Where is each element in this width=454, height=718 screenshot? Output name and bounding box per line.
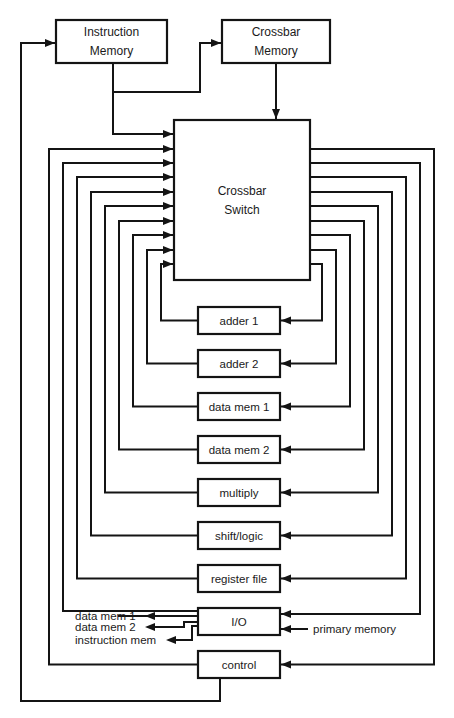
unit-control-label: control — [222, 659, 257, 671]
crossbar-memory-box-label: Crossbar — [252, 25, 301, 39]
arrowhead-icon — [281, 610, 291, 618]
unit-shift-logic: shift/logic — [198, 522, 280, 549]
unit-adder-2: adder 2 — [198, 350, 280, 377]
unit-adder-2-label: adder 2 — [219, 358, 258, 370]
arrowhead-icon — [272, 109, 280, 119]
unit-adder-1: adder 1 — [198, 307, 280, 334]
arrowhead-icon — [211, 39, 221, 47]
arrowhead-icon — [281, 575, 291, 583]
unit-multiply: multiply — [198, 479, 280, 506]
unit-adder-1-label: adder 1 — [219, 315, 258, 327]
unit-data-mem-2: data mem 2 — [198, 436, 280, 463]
crossbar-memory-box-label: Memory — [254, 44, 297, 58]
arrowhead-icon — [163, 202, 173, 210]
wire-io-to-data-mem-2 — [150, 622, 198, 627]
instruction-memory-box-label: Instruction — [84, 25, 139, 39]
arrowhead-icon — [281, 532, 291, 540]
arrowhead-icon — [166, 636, 176, 644]
unit-io-label: I/O — [231, 616, 246, 628]
arrowhead-icon — [145, 623, 155, 631]
unit-io: I/O — [198, 608, 280, 635]
crossbar-switch-box-label: Switch — [224, 203, 259, 217]
arrowhead-icon — [163, 217, 173, 225]
arrowhead-icon — [281, 661, 291, 669]
arrowhead-icon — [281, 625, 291, 633]
arrowhead-icon — [281, 489, 291, 497]
crossbar-switch-box-label: Crossbar — [218, 184, 267, 198]
arrowhead-icon — [163, 145, 173, 153]
io-output-data-mem-2: data mem 2 — [75, 621, 136, 633]
arrowhead-icon — [45, 39, 55, 47]
unit-data-mem-2-label: data mem 2 — [209, 444, 270, 456]
block-diagram: InstructionMemoryCrossbarMemoryCrossbarS… — [0, 0, 454, 718]
unit-shift-logic-label: shift/logic — [215, 530, 263, 542]
arrowhead-icon — [163, 159, 173, 167]
instruction-memory-box-label: Memory — [90, 44, 133, 58]
unit-register-file: register file — [198, 565, 280, 592]
arrowhead-icon — [281, 446, 291, 454]
unit-multiply-label: multiply — [220, 487, 259, 499]
wire-instruction-to-switch — [113, 63, 173, 134]
unit-control: control — [198, 651, 280, 678]
crossbar-switch-box: CrossbarSwitch — [174, 120, 310, 280]
unit-data-mem-1: data mem 1 — [198, 393, 280, 420]
crossbar-switch-box-frame — [174, 120, 310, 280]
instruction-memory-box: InstructionMemory — [56, 20, 167, 63]
arrowhead-icon — [281, 317, 291, 325]
io-output-instruction-mem: instruction mem — [75, 634, 156, 646]
arrowhead-icon — [281, 360, 291, 368]
unit-register-file-label: register file — [211, 573, 267, 585]
arrowhead-icon — [163, 130, 173, 138]
io-input-primary-memory: primary memory — [313, 623, 396, 635]
arrowhead-icon — [163, 173, 173, 181]
arrowhead-icon — [163, 246, 173, 254]
arrowhead-icon — [145, 612, 155, 620]
crossbar-memory-box: CrossbarMemory — [222, 20, 330, 63]
unit-data-mem-1-label: data mem 1 — [209, 401, 270, 413]
arrowhead-icon — [163, 260, 173, 268]
arrowhead-icon — [163, 231, 173, 239]
arrowhead-icon — [163, 188, 173, 196]
arrowhead-icon — [281, 403, 291, 411]
